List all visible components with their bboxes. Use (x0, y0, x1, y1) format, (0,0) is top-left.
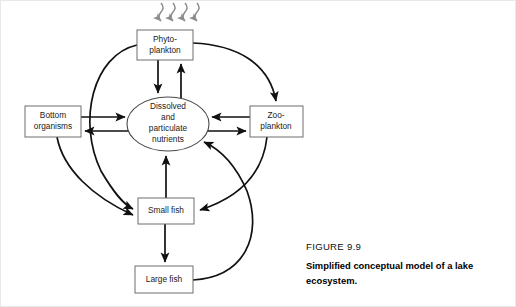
node-large-fish-label: Large fish (146, 274, 183, 284)
node-phytoplankton-label-line1: Phyto- (153, 34, 177, 44)
node-zooplankton-label-line1: Zoo- (267, 110, 284, 120)
node-small-fish-label: Small fish (148, 205, 184, 215)
edge-large-fish-to-nutrients (193, 142, 253, 280)
figure-caption-line1: Simplified conceptual model of a lake (306, 260, 473, 271)
node-bottom-organisms-label-line2: organisms (34, 121, 72, 131)
edge-bottom-organisms-to-small-fish (57, 137, 133, 215)
node-bottom-organisms[interactable]: Bottom organisms (25, 106, 81, 137)
sunlight-squiggle-icon (171, 3, 175, 21)
node-nutrients-label-line3: particulate (149, 123, 188, 133)
straight-edges (81, 60, 250, 262)
node-zooplankton[interactable]: Zoo- plankton (250, 106, 303, 137)
sunlight-squiggle-icon (159, 3, 163, 21)
figure-caption-line2: ecosystem. (306, 275, 357, 286)
sunlight-squiggle-icon (183, 3, 187, 21)
node-phytoplankton[interactable]: Phyto- plankton (137, 30, 193, 60)
sunlight-squiggly-arrows (159, 3, 199, 21)
node-zooplankton-label-line2: plankton (260, 121, 292, 131)
node-nutrients-label-line2: and (161, 112, 175, 122)
node-nutrients[interactable]: Dissolved and particulate nutrients (127, 97, 209, 151)
node-nutrients-label-line4: nutrients (152, 134, 184, 144)
figure-number-label: FIGURE 9.9 (306, 241, 361, 252)
sunlight-squiggle-icon (195, 3, 199, 21)
node-small-fish[interactable]: Small fish (138, 198, 194, 224)
edge-phytoplankton-to-zooplankton (193, 43, 276, 101)
node-bottom-organisms-label-line1: Bottom (40, 110, 66, 120)
node-nutrients-label-line1: Dissolved (150, 101, 186, 111)
node-phytoplankton-label-line2: plankton (149, 45, 181, 55)
figure-panel: Phyto- plankton Dissolved and particulat… (0, 0, 516, 307)
edge-zooplankton-to-small-fish (200, 137, 267, 210)
node-large-fish[interactable]: Large fish (135, 266, 193, 293)
